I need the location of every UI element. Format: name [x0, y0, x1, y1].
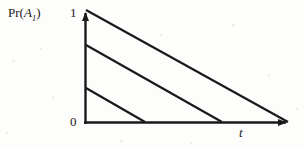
y-axis-label-variable: A — [24, 5, 32, 20]
scan-speckle — [232, 24, 235, 26]
figure-container: Pr(A1) 1 0 t — [0, 0, 305, 150]
scan-speckle — [160, 34, 162, 36]
scan-speckle — [296, 108, 298, 110]
y-tick-label-1: 1 — [70, 6, 77, 19]
scan-speckle — [40, 48, 42, 50]
y-axis-label-suffix: ) — [36, 5, 40, 20]
scan-speckle — [12, 60, 15, 62]
decay-line-middle — [86, 45, 222, 122]
axes-group — [84, 13, 286, 124]
scan-speckle — [268, 74, 270, 76]
y-axis-label-prefix: Pr( — [8, 5, 24, 20]
scan-speckle — [6, 132, 8, 134]
y-axis-label: Pr(A1) — [8, 6, 41, 23]
x-axis-label: t — [239, 126, 243, 139]
figure-canvas — [0, 0, 305, 150]
data-lines-group — [86, 10, 288, 122]
scan-speckle — [190, 142, 192, 144]
y-tick-label-0: 0 — [70, 115, 77, 128]
scan-speckle — [52, 96, 54, 99]
decay-line-lower — [86, 88, 145, 122]
scan-speckle — [120, 140, 123, 142]
